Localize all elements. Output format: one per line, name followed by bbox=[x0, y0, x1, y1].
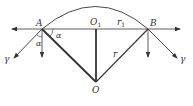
label-A: A bbox=[35, 18, 43, 28]
label-alpha-lower: α bbox=[36, 39, 42, 48]
label-gamma-left: γ bbox=[4, 54, 10, 64]
segment-AO bbox=[42, 29, 96, 82]
diagram-canvas: A B O1 r1 r O α α γ γ bbox=[0, 0, 193, 106]
angle-arc-lower bbox=[37, 35, 43, 37]
segment-BO bbox=[96, 29, 148, 82]
angle-arc-upper bbox=[50, 29, 53, 37]
label-B: B bbox=[149, 18, 157, 28]
label-r: r bbox=[113, 49, 118, 59]
gamma-ray-right bbox=[148, 29, 177, 58]
label-gamma-right: γ bbox=[180, 54, 186, 64]
label-O: O bbox=[92, 85, 100, 95]
label-alpha-upper: α bbox=[56, 31, 62, 40]
label-r1: r1 bbox=[117, 17, 125, 28]
label-O1: O1 bbox=[90, 17, 101, 28]
